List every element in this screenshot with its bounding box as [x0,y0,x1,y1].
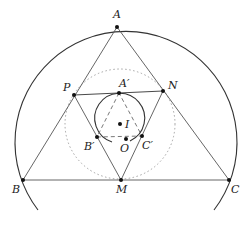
geometry-diagram: A B C M P N A′ B′ C′ I O [0,0,250,227]
label-i: I [125,119,129,130]
triangle-a1b1c1 [97,93,142,137]
small-circle-arc [95,93,145,142]
triangle-abc [23,27,229,180]
label-a: A [113,9,121,20]
label-o: O [120,143,129,154]
label-a-prime: A′ [119,78,129,89]
points [21,25,231,182]
label-c: C [231,184,239,195]
label-n: N [168,80,178,91]
label-p: P [63,82,70,93]
label-c-prime: C′ [142,140,153,151]
label-b-prime: B′ [84,141,95,152]
label-b: B [12,184,20,195]
label-m: M [116,184,127,195]
